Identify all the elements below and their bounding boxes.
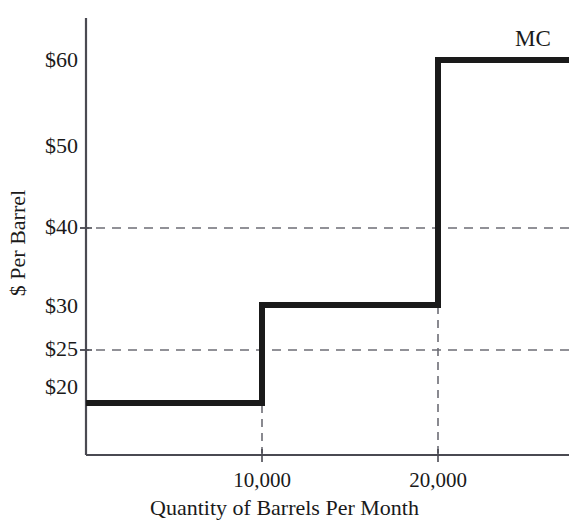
chart-canvas <box>0 0 569 528</box>
y-tick-20-label: $20 <box>45 376 78 398</box>
marginal-cost-chart: $60 $50 $40 $30 $25 $20 10,000 20,000 $ … <box>0 0 569 528</box>
mc-step-curve <box>86 60 569 403</box>
y-tick-30-label: $30 <box>45 295 78 317</box>
x-tick-10000-label: 10,000 <box>233 470 291 491</box>
x-tick-20000-label: 20,000 <box>409 470 467 491</box>
mc-curve-label: MC <box>515 27 551 50</box>
y-tick-60-label: $60 <box>45 49 78 71</box>
y-tick-50-label: $50 <box>45 135 78 157</box>
y-tick-40-label: $40 <box>45 216 78 238</box>
y-axis-title: $ Per Barrel <box>7 153 29 333</box>
x-axis-title: Quantity of Barrels Per Month <box>0 497 569 519</box>
y-tick-25-label: $25 <box>45 338 78 360</box>
